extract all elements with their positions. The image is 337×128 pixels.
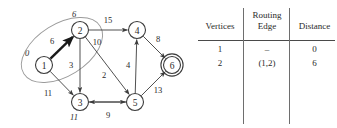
edge-weight-5-4: 4 <box>126 60 131 70</box>
edge-4-6 <box>143 36 165 58</box>
edge-weight-1-2: 6 <box>50 36 54 46</box>
edge-weight-2-4: 15 <box>104 15 113 25</box>
node-distance-3: 11 <box>70 112 78 122</box>
table-header-rule <box>198 40 335 41</box>
table-cell-routing-edge: – <box>245 44 289 54</box>
edge-weight-2-3: 3 <box>69 60 73 70</box>
edge-5-4 <box>135 39 136 93</box>
node-label-5: 5 <box>133 98 138 108</box>
table-cell-routing-edge: (1,2) <box>245 58 289 68</box>
table-header-routing-edge: Routing Edge <box>245 10 289 32</box>
table-row: 2(1,2)6 <box>196 58 337 72</box>
table-cell-vertex: 1 <box>196 44 244 54</box>
table-header-routing-line1: Routing <box>252 10 281 20</box>
routing-table-panel: Vertices Routing Edge Distance 1–02(1,2)… <box>196 0 337 128</box>
edge-weight-5-3: 2 <box>102 70 106 80</box>
table-header-routing-line2: Edge <box>258 21 277 31</box>
table-header-row: Vertices Routing Edge Distance <box>196 6 337 36</box>
node-label-6: 6 <box>170 61 175 71</box>
routing-table: Vertices Routing Edge Distance 1–02(1,2)… <box>196 6 337 36</box>
nodes-layer: 1026311456 <box>25 9 183 122</box>
node-label-3: 3 <box>78 98 83 108</box>
graph-svg: 1026311456 61131510924813 <box>0 0 195 128</box>
edge-weight-4-6: 8 <box>156 34 160 44</box>
edges-layer <box>50 30 165 102</box>
node-label-1: 1 <box>42 61 47 71</box>
edge-weight-3-5: 9 <box>106 110 110 120</box>
table-cell-vertex: 2 <box>196 58 244 68</box>
node-label-4: 4 <box>135 26 140 36</box>
table-header-distance: Distance <box>292 21 337 32</box>
edge-weight-1-3: 11 <box>44 88 52 98</box>
table-body: 1–02(1,2)6 <box>196 44 337 72</box>
graph-panel: 1026311456 61131510924813 <box>0 0 195 128</box>
edge-weight-2-5: 10 <box>93 37 102 47</box>
table-row: 1–0 <box>196 44 337 58</box>
table-header-vertices: Vertices <box>196 21 244 32</box>
table-cell-distance: 6 <box>292 58 337 68</box>
node-distance-1: 0 <box>25 48 30 58</box>
node-label-2: 2 <box>78 26 83 36</box>
edge-weight-5-6: 13 <box>154 85 163 95</box>
figure-root: 1026311456 61131510924813 Vertices Routi… <box>0 0 337 128</box>
table-cell-distance: 0 <box>292 44 337 54</box>
